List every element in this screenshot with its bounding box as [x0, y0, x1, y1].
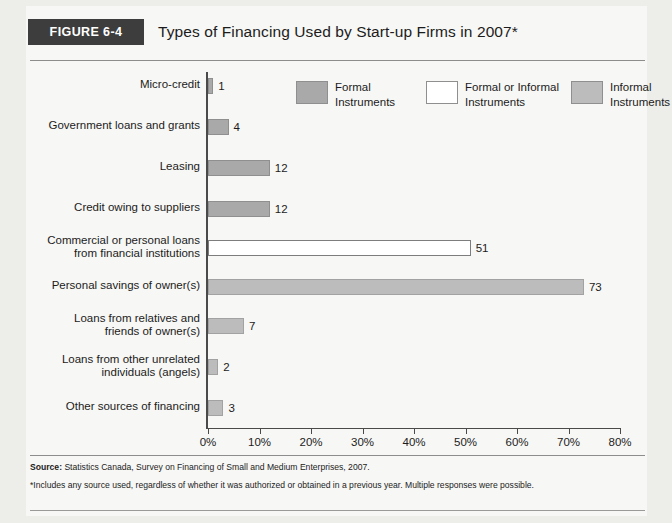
category-label: Loans from other unrelated individuals (…	[16, 353, 200, 380]
x-axis-tick	[208, 428, 209, 434]
category-label: Loans from relatives and friends of owne…	[16, 312, 200, 339]
x-axis-tick-label: 60%	[495, 436, 539, 448]
footer-divider	[30, 455, 645, 456]
page-bottom-divider	[30, 510, 645, 511]
bar-informal	[208, 318, 244, 334]
bar-value-label: 12	[275, 201, 288, 217]
bar-value-label: 2	[223, 359, 229, 375]
x-axis-tick-label: 50%	[444, 436, 488, 448]
x-axis-tick-label: 30%	[341, 436, 385, 448]
bar-value-label: 3	[228, 400, 234, 416]
category-label: Leasing	[16, 160, 200, 174]
source-label: Source:	[30, 462, 62, 472]
category-label: Micro-credit	[16, 78, 200, 92]
bar-value-label: 12	[275, 160, 288, 176]
x-axis-tick	[363, 428, 364, 434]
x-axis-tick	[260, 428, 261, 434]
footnote-line: *Includes any source used, regardless of…	[30, 480, 645, 490]
bar-value-label: 7	[249, 318, 255, 334]
bar-value-label: 4	[234, 119, 240, 135]
bar-formal	[208, 160, 270, 176]
category-label: Personal savings of owner(s)	[16, 279, 200, 293]
category-label: Government loans and grants	[16, 119, 200, 133]
category-label: Credit owing to suppliers	[16, 201, 200, 215]
x-axis-tick-label: 0%	[186, 436, 230, 448]
x-axis-tick-label: 20%	[289, 436, 333, 448]
x-axis-tick	[414, 428, 415, 434]
category-label: Other sources of financing	[16, 400, 200, 414]
bar-value-label: 73	[589, 279, 602, 295]
x-axis-tick	[466, 428, 467, 434]
bar-informal	[208, 279, 584, 295]
bar-formal	[208, 201, 270, 217]
bar-value-label: 51	[476, 240, 489, 256]
x-axis-tick-label: 40%	[392, 436, 436, 448]
source-text: Statistics Canada, Survey on Financing o…	[62, 462, 370, 472]
x-axis-tick-label: 10%	[238, 436, 282, 448]
x-axis-tick	[517, 428, 518, 434]
x-axis-tick	[311, 428, 312, 434]
bar-value-label: 1	[218, 78, 224, 94]
bar-chart-plot: Micro-credit1Government loans and grants…	[0, 0, 672, 523]
x-axis-tick-label: 80%	[598, 436, 642, 448]
bar-formal	[208, 78, 213, 94]
figure-page: FIGURE 6-4 Types of Financing Used by St…	[0, 0, 672, 523]
bar-informal	[208, 359, 218, 375]
source-line: Source: Statistics Canada, Survey on Fin…	[30, 462, 645, 472]
bar-formal_or_informal	[208, 240, 471, 256]
x-axis-tick-label: 70%	[547, 436, 591, 448]
x-axis-tick	[620, 428, 621, 434]
bar-informal	[208, 400, 223, 416]
x-axis-tick	[569, 428, 570, 434]
category-label: Commercial or personal loans from financ…	[16, 234, 200, 261]
bar-formal	[208, 119, 229, 135]
